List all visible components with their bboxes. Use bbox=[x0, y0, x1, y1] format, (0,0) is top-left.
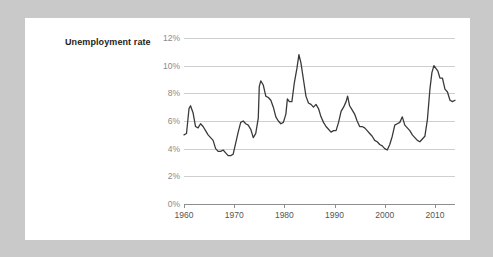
x-axis-tick-label: 1960 bbox=[175, 210, 194, 220]
x-axis-tick bbox=[385, 204, 386, 208]
x-axis-tick-label: 2000 bbox=[375, 210, 394, 220]
y-axis-tick-label: 0% bbox=[168, 199, 180, 209]
x-axis-tick bbox=[435, 204, 436, 208]
y-axis-tick-label: 4% bbox=[168, 144, 180, 154]
series-polyline bbox=[184, 55, 455, 156]
plot-area: 0%2%4%6%8%10%12% 19601970198019902000201… bbox=[184, 38, 455, 204]
x-axis-tick bbox=[184, 204, 185, 208]
x-axis-tick-label: 2010 bbox=[425, 210, 444, 220]
x-axis-tick bbox=[335, 204, 336, 208]
unemployment-rate-line bbox=[184, 38, 455, 204]
y-axis-tick-label: 12% bbox=[163, 33, 180, 43]
page-title: Unemployment rate bbox=[65, 37, 151, 47]
chart-card: Unemployment rate 0%2%4%6%8%10%12% 19601… bbox=[25, 18, 470, 240]
y-axis-tick-label: 6% bbox=[168, 116, 180, 126]
x-axis-tick-label: 1970 bbox=[225, 210, 244, 220]
x-axis-tick bbox=[284, 204, 285, 208]
y-axis-tick-label: 2% bbox=[168, 171, 180, 181]
y-axis-tick-label: 8% bbox=[168, 88, 180, 98]
x-axis-line bbox=[184, 204, 455, 205]
x-axis-tick-label: 1990 bbox=[325, 210, 344, 220]
x-axis-tick-label: 1980 bbox=[275, 210, 294, 220]
x-axis-tick bbox=[234, 204, 235, 208]
y-axis-tick-label: 10% bbox=[163, 61, 180, 71]
